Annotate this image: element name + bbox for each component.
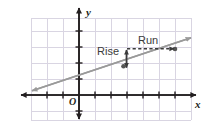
coordinate-plane-figure: y x O Rise Run [0, 0, 209, 127]
run-label: Run [138, 34, 158, 46]
grid-lines [31, 18, 191, 120]
graph-canvas: y x O Rise Run [0, 0, 209, 127]
y-axis-label: y [84, 6, 91, 18]
x-axis-label: x [194, 98, 201, 110]
rise-label: Rise [97, 45, 119, 57]
point-lower [121, 64, 126, 69]
origin-label: O [69, 96, 76, 107]
